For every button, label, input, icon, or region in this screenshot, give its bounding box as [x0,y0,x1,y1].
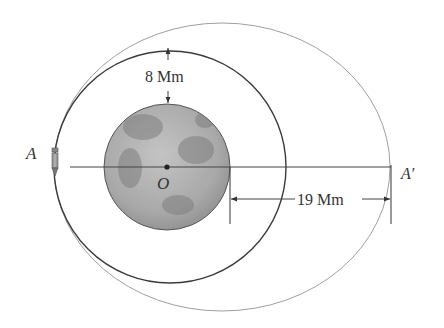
label-apoapsis-distance: 19 Mm [297,191,344,208]
center-point [164,164,169,169]
spacecraft-icon [52,148,58,182]
label-a: A [25,144,37,163]
label-altitude: 8 Mm [145,68,184,85]
orbit-diagram: A A′ O 8 Mm 19 Mm [0,0,444,328]
label-center-o: O [157,174,169,193]
label-a-prime: A′ [400,165,415,182]
